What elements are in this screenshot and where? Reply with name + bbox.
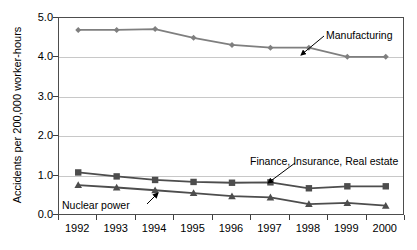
- y-tick-label: 0.0: [27, 209, 53, 220]
- x-tick-label: 1996: [211, 222, 251, 234]
- data-point: [344, 54, 350, 60]
- plot-area: [58, 17, 404, 215]
- y-tick-label: 4.0: [27, 51, 53, 62]
- x-tick-label: 1995: [173, 222, 213, 234]
- y-tick-label: 1.0: [27, 170, 53, 181]
- x-axis-tick-mark: [404, 215, 405, 220]
- data-point: [306, 45, 312, 51]
- data-point: [229, 42, 235, 48]
- data-point: [113, 173, 119, 179]
- data-point: [75, 27, 81, 33]
- y-axis-title: Accidents per 200,000 worker-hours: [11, 10, 23, 220]
- x-tick-label: 1992: [57, 222, 97, 234]
- data-point: [191, 35, 197, 41]
- x-axis-tick-mark: [289, 215, 290, 220]
- annotation-nuclear-power: Nuclear power: [62, 200, 130, 211]
- x-tick-label: 1997: [249, 222, 289, 234]
- x-tick-label: 2000: [365, 222, 405, 234]
- x-axis-tick-mark: [135, 215, 136, 220]
- x-axis-tick-mark: [212, 215, 213, 220]
- data-point: [267, 179, 273, 185]
- y-tick-label: 2.0: [27, 130, 53, 141]
- data-point: [152, 177, 158, 183]
- data-point: [383, 54, 389, 60]
- x-axis-tick-mark: [250, 215, 251, 220]
- data-series-layer: [59, 18, 405, 216]
- data-point: [267, 45, 273, 51]
- data-point: [344, 183, 350, 189]
- x-tick-label: 1999: [326, 222, 366, 234]
- x-tick-label: 1998: [288, 222, 328, 234]
- x-tick-label: 1994: [134, 222, 174, 234]
- data-point: [75, 169, 81, 175]
- annotation-manufacturing: Manufacturing: [326, 30, 393, 41]
- x-tick-label: 1993: [96, 222, 136, 234]
- data-point: [229, 180, 235, 186]
- annotation-finance-insurance-real-estate: Finance, Insurance, Real estate: [250, 156, 398, 167]
- x-axis-tick-mark: [58, 215, 59, 220]
- x-axis-tick-mark: [173, 215, 174, 220]
- chart-figure: Accidents per 200,000 worker-hours 5.0 4…: [0, 0, 417, 250]
- x-axis-tick-mark: [327, 215, 328, 220]
- data-point: [306, 185, 312, 191]
- y-tick-label: 5.0: [27, 12, 53, 23]
- x-axis-tick-mark: [366, 215, 367, 220]
- y-axis-tick-labels: 5.0 4.0 3.0 2.0 1.0 0.0: [25, 0, 53, 250]
- data-point: [190, 179, 196, 185]
- y-tick-label: 3.0: [27, 91, 53, 102]
- data-point: [114, 27, 120, 33]
- data-point: [152, 26, 158, 32]
- data-point: [383, 183, 389, 189]
- x-axis-tick-mark: [96, 215, 97, 220]
